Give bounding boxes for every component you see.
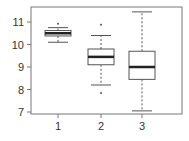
x-tick-label: 3 [139,120,145,132]
iqr-box [129,51,155,79]
box-2 [88,24,114,94]
box-1 [45,23,71,42]
outlier-point [100,92,102,94]
x-tick-label: 2 [98,120,104,132]
box-3 [129,12,155,111]
y-tick-label: 9 [18,61,24,73]
outlier-point [100,24,102,26]
x-tick-label: 1 [55,120,61,132]
outlier-point [57,23,59,25]
y-tick-label: 8 [18,84,24,96]
y-tick-label: 10 [12,39,24,51]
y-tick-label: 11 [13,16,24,28]
box-plot-chart: 7891011123 [0,0,189,141]
y-tick-label: 7 [18,106,24,118]
